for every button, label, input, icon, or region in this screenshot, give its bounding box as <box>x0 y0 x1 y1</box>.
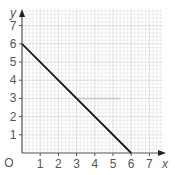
x-tick-label: 3 <box>73 157 80 171</box>
x-tick-label: 6 <box>128 157 135 171</box>
origin-label: O <box>4 156 13 170</box>
x-tick-label: 5 <box>110 157 117 171</box>
y-tick-label: 3 <box>10 91 17 105</box>
x-tick-label: 1 <box>37 157 44 171</box>
y-tick-label: 4 <box>10 73 17 87</box>
y-tick-label: 1 <box>10 128 17 142</box>
y-axis-label: y <box>9 6 17 20</box>
x-axis-arrow-icon <box>158 150 166 156</box>
y-tick-label: 6 <box>10 37 17 51</box>
x-tick-label: 4 <box>91 157 98 171</box>
x-tick-label: 7 <box>146 157 153 171</box>
y-tick-label: 2 <box>10 110 17 124</box>
y-tick-label: 5 <box>10 55 17 69</box>
axes <box>19 9 166 156</box>
x-tick-label: 2 <box>55 157 62 171</box>
y-axis-arrow-icon <box>19 9 25 17</box>
y-tick-label: 7 <box>10 19 17 33</box>
x-axis-label: x <box>161 157 169 171</box>
grid <box>22 9 163 153</box>
line-chart: 12345671234567Oxy <box>0 0 175 175</box>
